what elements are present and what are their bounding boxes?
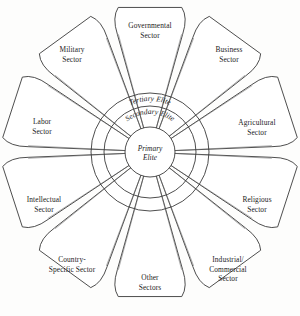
petal-label-business: BusinessSector xyxy=(215,45,242,64)
diagram-canvas: Tertiary EliteSecondary ElitePrimaryElit… xyxy=(0,0,300,316)
petal-label-other: OtherSectors xyxy=(139,273,161,292)
radial-petal-diagram: Tertiary EliteSecondary ElitePrimaryElit… xyxy=(0,0,300,316)
petal-label-military: MilitarySector xyxy=(59,45,84,64)
petal-label-labor: LaborSector xyxy=(32,117,52,136)
